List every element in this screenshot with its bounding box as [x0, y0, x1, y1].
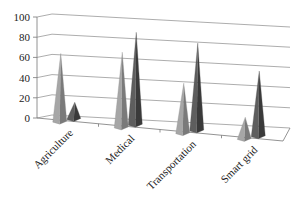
pyramid-agriculture-series-1: [53, 53, 67, 124]
pyramid-medical-series-1: [114, 52, 128, 130]
pyramid-transportation-series-1: [176, 83, 190, 136]
pyramid-agriculture-series-2: [67, 102, 81, 121]
y-tick-label: 100: [14, 11, 31, 23]
gridline: [37, 14, 290, 27]
y-tick-label: 80: [19, 31, 31, 43]
pyramid-transportation-series-2: [190, 43, 204, 133]
gridline: [37, 54, 290, 67]
y-axis-ticks: 020406080100: [14, 11, 38, 124]
x-axis-labels: AgricultureMedicalTransportationSmart gr…: [31, 126, 260, 192]
x-category-label: Transportation: [144, 138, 198, 192]
x-category-label: Medical: [103, 132, 137, 166]
pyramid-smart-grid-series-1: [237, 117, 251, 141]
pyramid-face-right: [183, 83, 190, 136]
pyramid-face-right: [197, 43, 204, 133]
pyramid-face-right: [74, 102, 81, 121]
y-tick-label: 40: [19, 72, 31, 84]
pyramid-smart-grid-series-2: [251, 71, 265, 139]
pyramid-face-right: [244, 117, 251, 141]
pyramid-face-right: [258, 71, 265, 139]
y-tick-label: 20: [19, 92, 31, 104]
y-tick-label: 0: [25, 112, 31, 124]
pyramid-chart: 020406080100 AgricultureMedicalTransport…: [0, 0, 300, 207]
pyramid-face-right: [121, 52, 128, 130]
x-category-label: Smart grid: [218, 143, 260, 185]
x-category-label: Agriculture: [31, 126, 75, 170]
y-tick-label: 60: [19, 51, 31, 63]
gridline: [37, 75, 290, 88]
gridline: [37, 34, 290, 47]
pyramid-face-right: [60, 53, 67, 124]
